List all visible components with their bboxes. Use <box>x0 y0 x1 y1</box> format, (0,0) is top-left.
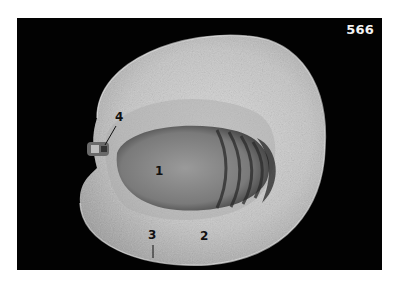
callout-3-skin: 3 <box>148 229 156 241</box>
callout-4-stalk: 4 <box>115 111 123 123</box>
callout-1-stone: 1 <box>155 165 163 177</box>
callout-2-flesh: 2 <box>200 230 208 242</box>
figure-number: 566 <box>346 22 374 37</box>
fruit-photo: 566 1 2 3 4 <box>17 18 382 270</box>
